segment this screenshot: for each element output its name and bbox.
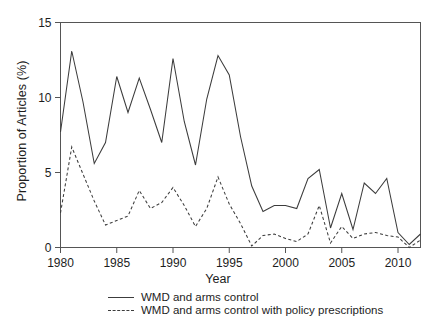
x-tick-label: 2010 [385, 256, 412, 270]
series-line-dashed [61, 147, 421, 248]
y-tick-label: 10 [31, 91, 52, 105]
x-axis-ticks [61, 248, 399, 254]
x-tick-label: 2000 [272, 256, 299, 270]
y-axis-ticks [55, 23, 61, 248]
x-axis-title: Year [0, 272, 436, 286]
chart-figure: Proportion of Articles (%) Year 19801985… [0, 0, 436, 325]
legend-label-solid: WMD and arms control [141, 291, 259, 303]
legend-label-dashed: WMD and arms control with policy prescri… [141, 304, 383, 316]
y-axis-title: Proportion of Articles (%) [15, 31, 29, 231]
legend-line-solid-icon [108, 291, 134, 303]
y-tick-label: 0 [31, 241, 52, 255]
y-tick-label: 15 [31, 16, 52, 30]
x-tick-label: 1980 [47, 256, 74, 270]
x-tick-label: 1995 [216, 256, 243, 270]
series-line-solid [61, 51, 421, 245]
chart-legend: WMD and arms control WMD and arms contro… [108, 290, 408, 316]
legend-item-solid: WMD and arms control [108, 290, 408, 303]
x-tick-label: 1985 [103, 256, 130, 270]
data-series-group [61, 51, 421, 248]
legend-item-dashed: WMD and arms control with policy prescri… [108, 303, 408, 316]
x-tick-label: 2005 [328, 256, 355, 270]
x-tick-label: 1990 [160, 256, 187, 270]
y-tick-label: 5 [31, 166, 52, 180]
legend-line-dashed-icon [108, 304, 134, 316]
